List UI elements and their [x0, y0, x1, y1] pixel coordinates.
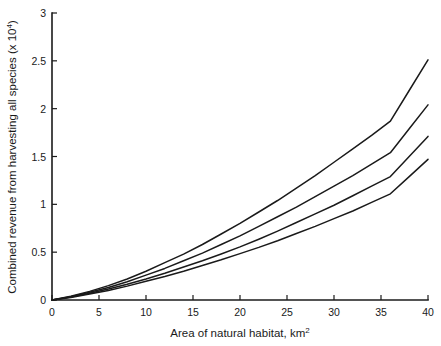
line-chart: 00.511.522.53 0510152025303540 Area of n… — [0, 0, 441, 346]
y-axis-ticks: 00.511.522.53 — [31, 7, 57, 306]
y-tick-label: 2 — [40, 103, 46, 115]
x-tick-label: 35 — [375, 306, 387, 318]
series-curve-1 — [52, 60, 428, 300]
data-series-group — [52, 60, 428, 300]
series-curve-3 — [52, 136, 428, 300]
series-curve-4 — [52, 159, 428, 300]
y-tick-label: 0 — [40, 294, 46, 306]
y-tick-label: 0.5 — [31, 246, 46, 258]
y-tick-label: 3 — [40, 7, 46, 19]
y-tick-label: 2.5 — [31, 55, 46, 67]
x-tick-label: 5 — [96, 306, 102, 318]
x-tick-label: 40 — [422, 306, 434, 318]
x-axis-title: Area of natural habitat, km2 — [170, 326, 310, 340]
x-tick-label: 0 — [49, 306, 55, 318]
y-axis-title: Combined revenue from harvesting all spe… — [5, 20, 19, 294]
x-tick-label: 15 — [187, 306, 199, 318]
chart-figure: 00.511.522.53 0510152025303540 Area of n… — [0, 0, 441, 346]
x-tick-label: 20 — [234, 306, 246, 318]
x-tick-label: 25 — [281, 306, 293, 318]
y-tick-label: 1.5 — [31, 151, 46, 163]
x-axis-ticks: 0510152025303540 — [49, 295, 434, 318]
x-tick-label: 30 — [328, 306, 340, 318]
y-tick-label: 1 — [40, 198, 46, 210]
x-tick-label: 10 — [140, 306, 152, 318]
